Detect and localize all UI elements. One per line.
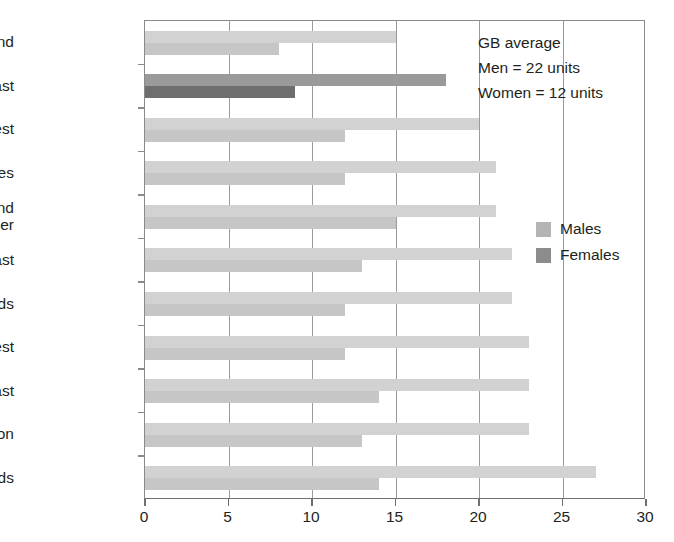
y-axis-label: East Midlands (0, 469, 14, 486)
y-axis-tick (138, 368, 144, 370)
x-axis-label: 5 (208, 508, 248, 526)
annotation-line-title: GB average (478, 30, 603, 55)
bar-male (145, 161, 496, 173)
bar-female (145, 435, 362, 447)
bar-female (145, 391, 379, 403)
x-axis-tick (478, 499, 480, 506)
bar-male (145, 423, 529, 435)
bar-female (145, 304, 345, 316)
y-axis-label: North East (0, 77, 14, 94)
x-axis-label: 30 (625, 508, 665, 526)
bar-female (145, 260, 362, 272)
y-axis-tick (138, 64, 144, 66)
y-axis-label: Yorkshire and The Humber (0, 199, 14, 233)
bar-female (145, 217, 396, 229)
bar-group (145, 456, 644, 500)
bar-chart: ScotlandNorth EastNorth WestWalesYorkshi… (0, 0, 674, 542)
y-axis-label: South East (0, 382, 14, 399)
bar-group (145, 108, 644, 152)
chart-legend: Males Females (536, 216, 619, 268)
x-axis-tick (311, 499, 313, 506)
y-axis-tick (138, 281, 144, 283)
bar-female (145, 130, 345, 142)
bar-group (145, 413, 644, 457)
x-axis-label: 15 (375, 508, 415, 526)
bar-male (145, 74, 446, 86)
legend-item-males: Males (536, 216, 619, 242)
x-axis-tick (645, 499, 647, 506)
bar-group (145, 326, 644, 370)
x-axis-tick (562, 499, 564, 506)
x-axis-tick (144, 499, 146, 506)
bar-male (145, 292, 512, 304)
bar-group (145, 152, 644, 196)
legend-label-males: Males (560, 216, 601, 242)
x-axis-label: 10 (291, 508, 331, 526)
legend-label-females: Females (560, 242, 619, 268)
x-axis-label: 0 (124, 508, 164, 526)
bar-male (145, 379, 529, 391)
annotation-line-women: Women = 12 units (478, 80, 603, 105)
bar-group (145, 282, 644, 326)
y-axis-label: Wales (0, 164, 14, 181)
x-axis-label: 25 (542, 508, 582, 526)
bar-female (145, 43, 279, 55)
bar-male (145, 248, 512, 260)
bar-male (145, 466, 596, 478)
y-axis-tick (138, 151, 144, 153)
gb-average-annotation: GB average Men = 22 units Women = 12 uni… (478, 30, 603, 105)
x-axis-tick (395, 499, 397, 506)
y-axis-label: Scotland (0, 33, 14, 50)
bar-male (145, 205, 496, 217)
bar-female (145, 478, 379, 490)
y-axis-tick (138, 107, 144, 109)
y-axis-tick (138, 194, 144, 196)
y-axis-label: East (0, 251, 14, 268)
bar-female (145, 86, 295, 98)
legend-swatch-females-icon (536, 248, 551, 263)
legend-item-females: Females (536, 242, 619, 268)
y-axis-tick (138, 238, 144, 240)
y-axis-label: West Midlands (0, 295, 14, 312)
bar-group (145, 369, 644, 413)
x-axis-tick (228, 499, 230, 506)
bar-male (145, 118, 479, 130)
bar-male (145, 336, 529, 348)
bar-male (145, 31, 396, 43)
y-axis-tick (138, 412, 144, 414)
y-axis-label: London (0, 425, 14, 442)
y-axis-tick (138, 325, 144, 327)
annotation-line-men: Men = 22 units (478, 55, 603, 80)
y-axis-tick (138, 455, 144, 457)
bar-female (145, 173, 345, 185)
legend-swatch-males-icon (536, 222, 551, 237)
y-axis-label: North West (0, 120, 14, 137)
x-axis-label: 20 (458, 508, 498, 526)
y-axis-label: South West (0, 338, 14, 355)
bar-female (145, 348, 345, 360)
